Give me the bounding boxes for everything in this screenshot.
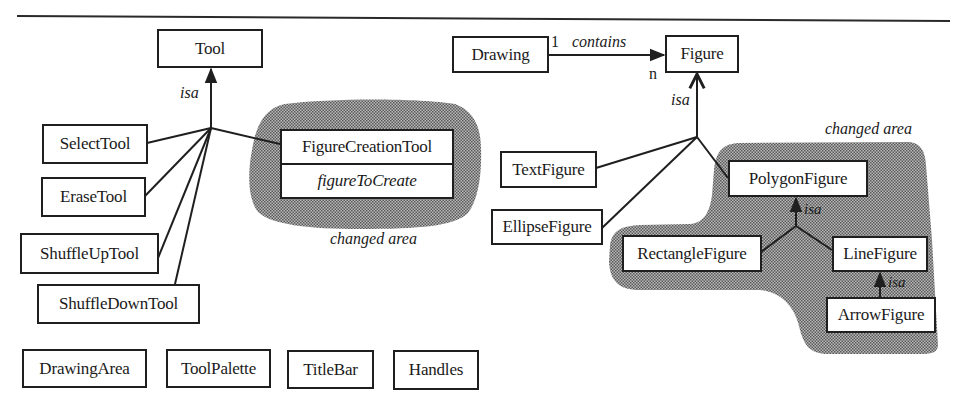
class-shuffleuptool-label: ShuffleUpTool xyxy=(40,244,139,264)
class-arrowfigure[interactable]: ArrowFigure xyxy=(826,297,936,333)
class-handles-label: Handles xyxy=(409,360,463,380)
class-figurecreationtool-name: FigureCreationTool xyxy=(282,131,452,163)
class-selecttool[interactable]: SelectTool xyxy=(42,124,148,164)
class-diagram: Tool isa SelectTool EraseTool ShuffleUpT… xyxy=(0,0,958,420)
top-rule xyxy=(17,16,950,21)
class-shuffledowntool-label: ShuffleDownTool xyxy=(59,294,178,314)
class-erasetool[interactable]: EraseTool xyxy=(41,177,146,217)
class-tool[interactable]: Tool xyxy=(157,29,263,68)
class-selecttool-label: SelectTool xyxy=(60,134,130,154)
class-linefigure[interactable]: LineFigure xyxy=(832,236,928,272)
class-handles[interactable]: Handles xyxy=(393,350,479,390)
class-titlebar-label: TitleBar xyxy=(303,360,357,380)
class-toolpalette-label: ToolPalette xyxy=(181,359,256,379)
class-linefigure-label: LineFigure xyxy=(843,244,917,264)
multiplicity-source: 1 xyxy=(551,33,559,51)
association-label: contains xyxy=(572,33,626,51)
class-drawing[interactable]: Drawing xyxy=(452,36,549,73)
class-polygonfigure[interactable]: PolygonFigure xyxy=(728,160,868,197)
class-figurecreationtool-attribute: figureToCreate xyxy=(282,163,452,197)
class-figure-label: Figure xyxy=(680,44,723,64)
class-titlebar[interactable]: TitleBar xyxy=(287,350,374,389)
class-ellipsefigure-label: EllipseFigure xyxy=(503,217,592,237)
class-toolpalette[interactable]: ToolPalette xyxy=(166,349,271,388)
class-tool-label: Tool xyxy=(195,39,225,59)
class-rectanglefigure[interactable]: RectangleFigure xyxy=(622,235,762,272)
multiplicity-target: n xyxy=(649,65,657,83)
class-arrowfigure-label: ArrowFigure xyxy=(838,305,925,325)
changed-area-tools-label: changed area xyxy=(330,230,417,248)
figure-isa-label: isa xyxy=(671,91,690,109)
class-textfigure-label: TextFigure xyxy=(512,160,584,180)
class-rectanglefigure-label: RectangleFigure xyxy=(637,244,746,264)
class-drawing-label: Drawing xyxy=(471,45,529,65)
line-isa-label: isa xyxy=(888,274,906,291)
class-figurecreationtool[interactable]: FigureCreationTool figureToCreate xyxy=(280,129,454,199)
polygon-isa-label: isa xyxy=(804,201,822,218)
class-shuffledowntool[interactable]: ShuffleDownTool xyxy=(37,284,200,324)
changed-area-figures-label: changed area xyxy=(825,120,912,138)
class-ellipsefigure[interactable]: EllipseFigure xyxy=(491,209,603,245)
class-polygonfigure-label: PolygonFigure xyxy=(749,169,847,189)
class-drawingarea[interactable]: DrawingArea xyxy=(22,349,147,388)
class-erasetool-label: EraseTool xyxy=(60,187,127,207)
class-figure[interactable]: Figure xyxy=(665,35,739,73)
class-shuffleuptool[interactable]: ShuffleUpTool xyxy=(20,233,159,274)
class-textfigure[interactable]: TextFigure xyxy=(500,151,597,188)
erasetool-link xyxy=(145,128,211,196)
class-drawingarea-label: DrawingArea xyxy=(39,359,129,379)
tool-isa-label: isa xyxy=(180,84,199,102)
shuffledowntool-link xyxy=(175,128,211,284)
selecttool-link xyxy=(147,128,211,143)
